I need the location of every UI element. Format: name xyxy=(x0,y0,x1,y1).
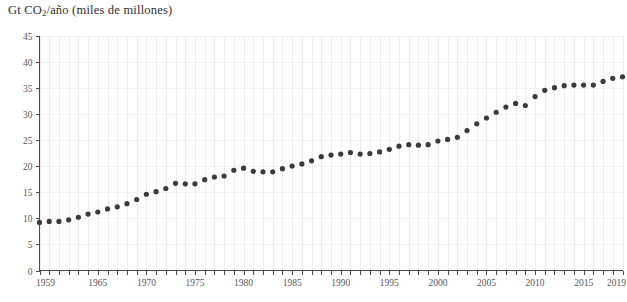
data-point xyxy=(591,83,596,88)
x-axis-tick-label: 2015 xyxy=(574,278,593,288)
data-point xyxy=(319,154,324,159)
data-point xyxy=(377,149,382,154)
x-axis-tick-label: 1965 xyxy=(88,278,107,288)
data-point xyxy=(552,85,557,90)
data-point xyxy=(562,83,567,88)
data-point xyxy=(396,144,401,149)
data-point xyxy=(95,209,100,214)
y-axis-tick-label: 30 xyxy=(23,110,33,120)
x-axis-tick-label: 2005 xyxy=(477,278,496,288)
y-axis-tick-label: 10 xyxy=(23,214,33,224)
data-point xyxy=(47,219,52,224)
data-point xyxy=(154,189,159,194)
data-point xyxy=(464,128,469,133)
data-point xyxy=(328,152,333,157)
y-axis-tick-label: 0 xyxy=(28,267,33,277)
data-point xyxy=(183,181,188,186)
y-axis-tick-label: 20 xyxy=(23,162,33,172)
data-point xyxy=(581,83,586,88)
x-axis-ticks xyxy=(41,271,624,275)
x-axis-tick-label: 1980 xyxy=(234,278,253,288)
data-point xyxy=(387,147,392,152)
x-axis-tick-label: 2000 xyxy=(428,278,447,288)
y-axis-tick-label: 40 xyxy=(23,58,33,68)
data-point xyxy=(290,163,295,168)
data-point xyxy=(105,206,110,211)
data-point xyxy=(280,166,285,171)
data-point xyxy=(115,204,120,209)
data-point xyxy=(416,143,421,148)
data-point xyxy=(222,173,227,178)
data-point xyxy=(163,186,168,191)
data-point xyxy=(260,169,265,174)
y-axis-tick-labels: 051015202530354045 xyxy=(23,32,33,277)
data-point xyxy=(484,115,489,120)
x-axis-tick-label: 2010 xyxy=(526,278,545,288)
data-point xyxy=(610,76,615,81)
data-point xyxy=(134,197,139,202)
y-axis-tick-label: 5 xyxy=(28,240,33,250)
data-point xyxy=(367,151,372,156)
data-point xyxy=(144,192,149,197)
data-point xyxy=(348,150,353,155)
data-point xyxy=(445,137,450,142)
data-point xyxy=(299,161,304,166)
data-point xyxy=(309,158,314,163)
data-point xyxy=(571,83,576,88)
x-axis-tick-labels: 1959196519701975198019851990199520002005… xyxy=(36,278,626,288)
data-point xyxy=(600,79,605,84)
data-point xyxy=(358,151,363,156)
data-point xyxy=(435,138,440,143)
data-point xyxy=(85,212,90,217)
data-point xyxy=(231,168,236,173)
y-axis-tick-label: 25 xyxy=(23,136,33,146)
data-point xyxy=(513,101,518,106)
x-axis-tick-label: 1985 xyxy=(283,278,302,288)
data-point xyxy=(76,215,81,220)
chart-container: Gt CO2/año (miles de millones) 051015202… xyxy=(0,0,627,302)
data-point xyxy=(503,104,508,109)
data-point xyxy=(542,88,547,93)
x-axis-tick-label: 1970 xyxy=(137,278,156,288)
data-point xyxy=(620,74,625,79)
data-point xyxy=(66,217,71,222)
data-point xyxy=(270,169,275,174)
x-axis-tick-label: 1995 xyxy=(380,278,399,288)
x-axis-tick-label: 2019 xyxy=(607,278,626,288)
data-point xyxy=(494,110,499,115)
data-point xyxy=(474,121,479,126)
data-point xyxy=(455,135,460,140)
scatter-plot: 051015202530354045 195919651970197519801… xyxy=(0,0,627,302)
y-axis-tick-label: 45 xyxy=(23,32,33,42)
data-point xyxy=(523,103,528,108)
data-point xyxy=(212,174,217,179)
y-axis-tick-label: 35 xyxy=(23,84,33,94)
data-point xyxy=(251,169,256,174)
data-point xyxy=(124,201,129,206)
data-point xyxy=(338,151,343,156)
data-point xyxy=(37,220,42,225)
data-point xyxy=(532,94,537,99)
y-axis-ticks xyxy=(36,37,40,272)
x-axis-tick-label: 1975 xyxy=(185,278,204,288)
data-point xyxy=(56,219,61,224)
data-point xyxy=(241,166,246,171)
data-point xyxy=(192,181,197,186)
y-axis-tick-label: 15 xyxy=(23,188,33,198)
data-point xyxy=(426,142,431,147)
data-point xyxy=(173,181,178,186)
x-axis-tick-label: 1990 xyxy=(331,278,350,288)
data-point xyxy=(406,142,411,147)
data-point xyxy=(202,177,207,182)
x-axis-tick-label: 1959 xyxy=(36,278,55,288)
